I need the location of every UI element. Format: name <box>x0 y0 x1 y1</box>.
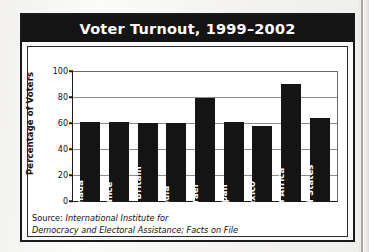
y-axis-tick-label: 80 <box>58 93 68 102</box>
bar[interactable]: Canada <box>80 122 100 201</box>
bar[interactable]: India <box>166 123 186 201</box>
chart-card: Percentage of Voters 020406080100 Canada… <box>27 46 348 237</box>
source-line-1: International Institute for <box>65 213 168 223</box>
bar[interactable]: Japan <box>224 122 244 201</box>
y-axis-tick-label: 0 <box>63 197 68 206</box>
bar[interactable]: Mexico <box>252 126 272 201</box>
bar[interactable]: Israel <box>195 98 215 201</box>
y-axis-tick-label: 20 <box>58 171 68 180</box>
title-banner: Voter Turnout, 1999–2002 <box>22 15 353 42</box>
bar-category-label: Mexico <box>242 181 262 215</box>
source-label: Source: <box>32 213 65 223</box>
bar-category-label: Canada <box>70 180 90 216</box>
plot-area: 020406080100 CanadaFranceGreat BritainIn… <box>72 71 338 202</box>
y-axis-title: Percentage of Voters <box>25 75 39 175</box>
figure-frame: Voter Turnout, 1999–2002 Percentage of V… <box>20 13 355 242</box>
bar-category-label: Israel <box>185 184 205 211</box>
y-axis-tick-label: 100 <box>53 67 68 76</box>
page-right-rule <box>361 0 363 252</box>
bar[interactable]: Great Britain <box>138 123 158 201</box>
bar-slot: United States <box>305 71 334 201</box>
bar-category-label: Japan <box>214 184 234 211</box>
bar[interactable]: South Africa <box>281 84 301 201</box>
bar[interactable]: United States <box>310 118 330 201</box>
bar-slot: India <box>162 71 191 201</box>
bar-category-label: India <box>156 186 176 210</box>
bar-slot: Israel <box>191 71 220 201</box>
source-line-2: Democracy and Electoral Assistance; Fact… <box>32 225 238 235</box>
source-note: Source: International Institute for Demo… <box>32 213 332 236</box>
y-axis-tick-label: 60 <box>58 119 68 128</box>
y-axis-tick-label: 40 <box>58 145 68 154</box>
bar-category-label: France <box>99 182 119 215</box>
bar-group: CanadaFranceGreat BritainIndiaIsraelJapa… <box>73 71 337 201</box>
bar[interactable]: France <box>109 122 129 201</box>
bar-slot: Great Britain <box>133 71 162 201</box>
page-title: Voter Turnout, 1999–2002 <box>80 21 296 37</box>
